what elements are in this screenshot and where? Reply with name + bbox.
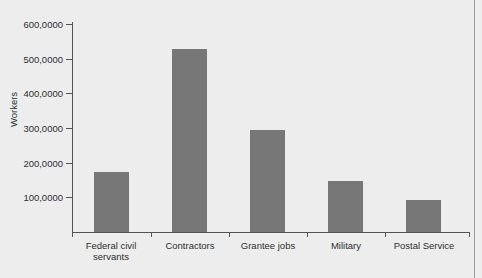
x-axis-tick — [307, 232, 308, 237]
bar-federal-civil-servants[interactable] — [94, 172, 129, 232]
y-axis-tick-label: 300,0000 — [5, 123, 63, 134]
x-axis-tick — [469, 232, 470, 237]
y-axis-tick-label: 600,0000 — [5, 19, 63, 30]
x-axis-label-postal-service: Postal Service — [380, 240, 468, 251]
bar-postal-service[interactable] — [406, 200, 441, 232]
x-axis-label-military: Military — [302, 240, 390, 251]
x-axis-tick — [151, 232, 152, 237]
y-axis-tick-label: 500,0000 — [5, 54, 63, 65]
bar-contractors[interactable] — [172, 49, 207, 232]
x-axis-label-contractors: Contractors — [146, 240, 234, 251]
x-axis-label-grantee-jobs: Grantee jobs — [224, 240, 312, 251]
y-axis-tick-label: 400,0000 — [5, 88, 63, 99]
y-axis-title: Workers — [8, 75, 19, 145]
y-axis-tick-label: 100,0000 — [5, 192, 63, 203]
x-axis-tick — [72, 232, 73, 237]
x-axis-tick — [385, 232, 386, 237]
bar-chart-figure: g Workers 100,0000 200,0000 300,0000 400… — [0, 0, 482, 278]
figure-right-border — [474, 0, 475, 278]
y-axis-tick-label: 200,0000 — [5, 158, 63, 169]
plot-area — [72, 24, 470, 232]
bar-military[interactable] — [328, 181, 363, 232]
bar-grantee-jobs[interactable] — [250, 130, 285, 232]
x-axis-tick — [229, 232, 230, 237]
x-axis-line — [72, 232, 470, 233]
x-axis-label-federal-civil-servants: Federal civil servants — [67, 240, 155, 262]
